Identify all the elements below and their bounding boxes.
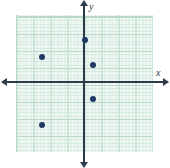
y-axis-line (83, 4, 85, 164)
data-point (39, 54, 45, 60)
y-axis-arrow-down-icon (80, 162, 88, 168)
x-axis-label: x (156, 68, 160, 78)
y-axis-label: y (89, 2, 93, 12)
x-axis-arrow-left-icon (1, 78, 7, 86)
coordinate-plane-figure: y x (0, 0, 170, 168)
x-axis-arrow-right-icon (163, 78, 169, 86)
data-point (39, 122, 45, 128)
data-point (90, 96, 96, 102)
data-point (90, 62, 96, 68)
y-axis-arrow-up-icon (80, 0, 88, 6)
data-point (82, 37, 88, 43)
x-axis-line (5, 81, 165, 83)
